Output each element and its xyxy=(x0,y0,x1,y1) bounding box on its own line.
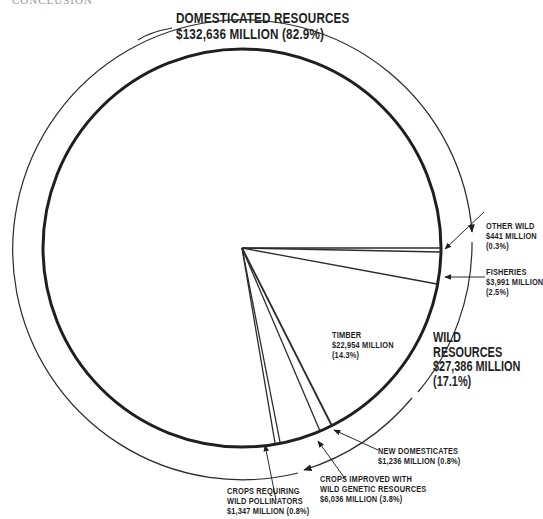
domesticated-title: DOMESTICATED RESOURCES xyxy=(176,10,350,26)
label-crops-pollinators: CROPS REQUIRING WILD POLLINATORS $1,347 … xyxy=(227,486,309,516)
label-new-domesticates: NEW DOMESTICATES $1,236 MILLION (0.8%) xyxy=(378,446,460,466)
pie-chart xyxy=(0,0,543,519)
new-domesticates-value: $1,236 MILLION (0.8%) xyxy=(378,456,460,466)
other-wild-percent: (0.3%) xyxy=(486,241,537,251)
label-wild: WILD RESOURCES $27,386 MILLION (17.1%) xyxy=(433,330,520,389)
label-fisheries: FISHERIES $3,991 MILLION (2.5%) xyxy=(486,267,543,297)
label-other-wild: OTHER WILD $441 MILLION (0.3%) xyxy=(486,221,537,251)
label-domesticated: DOMESTICATED RESOURCES $132,636 MILLION … xyxy=(176,10,350,42)
wild-title-2: RESOURCES xyxy=(433,345,520,360)
fisheries-percent: (2.5%) xyxy=(486,287,543,297)
label-crops-improved: CROPS IMPROVED WITH WILD GENETIC RESOURC… xyxy=(320,474,426,504)
crops-improved-value: $6,036 MILLION (3.8%) xyxy=(320,494,426,504)
wild-percent: (17.1%) xyxy=(433,374,520,389)
wild-value: $27,386 MILLION xyxy=(433,359,520,374)
timber-percent: (14.3%) xyxy=(332,350,394,360)
domesticated-label-leader xyxy=(138,28,172,40)
wild-title-1: WILD xyxy=(433,330,520,345)
label-timber: TIMBER $22,954 MILLION (14.3%) xyxy=(332,330,394,360)
crops-pollinators-value: $1,347 MILLION (0.8%) xyxy=(227,506,309,516)
domesticated-value: $132,636 MILLION (82.9%) xyxy=(176,26,350,42)
